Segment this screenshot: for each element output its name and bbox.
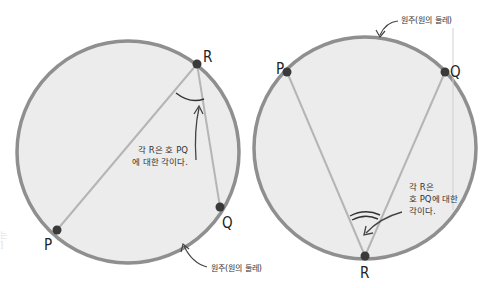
inscribed-angle-diagram: 는 ] R Q P 각 R은 호 PQ 에 대한 각이다. 원주(원의 둘레)	[0, 0, 490, 288]
right-point-r	[361, 252, 370, 261]
right-label-p: P	[276, 60, 284, 78]
left-circumference-arrow	[184, 246, 207, 267]
right-point-q	[441, 68, 450, 77]
right-angle-note-line2: 호 PQ에 대한	[409, 194, 458, 204]
left-circle-diagram: R Q P 각 R은 호 PQ 에 대한 각이다. 원주(원의 둘레)	[17, 41, 262, 273]
right-angle-note-line3: 각이다.	[409, 206, 436, 216]
right-circle-diagram: P Q R 각 R은 호 PQ에 대한 각이다. 원주(원의 둘레)	[254, 15, 476, 282]
left-circumference-label: 원주(원의 둘레)	[211, 263, 262, 273]
left-point-p	[53, 226, 62, 235]
left-label-p: P	[44, 236, 52, 254]
left-point-q	[216, 203, 225, 212]
left-angle-note-line1: 각 R은 호 PQ	[138, 145, 188, 155]
left-circle	[17, 41, 239, 263]
right-label-q: Q	[450, 63, 461, 81]
cutoff-text-line2: ]	[0, 241, 3, 250]
left-label-q: Q	[222, 214, 233, 232]
left-point-r	[193, 60, 202, 69]
right-circumference-label: 원주(원의 둘레)	[401, 15, 452, 25]
left-label-r: R	[203, 48, 212, 66]
left-angle-note-line2: 에 대한 각이다.	[132, 157, 188, 167]
right-angle-note-line1: 각 R은	[409, 182, 434, 192]
cutoff-text-line1: 는	[0, 231, 7, 240]
right-label-r: R	[360, 264, 369, 282]
